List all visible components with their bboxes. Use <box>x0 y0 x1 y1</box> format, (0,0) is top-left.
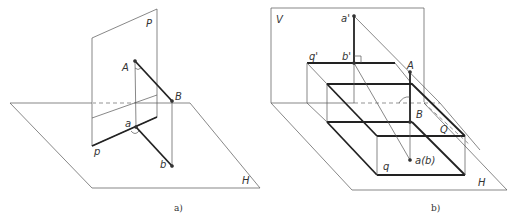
projector-aa <box>135 61 136 127</box>
box-diag-1 <box>307 63 327 84</box>
label-b-prime: b' <box>342 51 351 62</box>
box-bottom-left-diag <box>327 122 377 175</box>
point-b-prime-marker <box>352 61 355 64</box>
point-a-marker <box>134 125 137 128</box>
segment-ab-projection <box>136 127 172 166</box>
label-plane-h-b: H <box>478 177 486 188</box>
figure-a: P H A B a b p a) <box>10 9 260 213</box>
right-angle-mark-a-lower <box>131 131 139 134</box>
label-point-A-b: A <box>406 60 414 71</box>
label-plane-v: V <box>276 14 284 25</box>
segment-ab <box>135 61 172 101</box>
label-point-a: a <box>125 118 131 129</box>
box-bottom-right-diag <box>412 122 465 175</box>
label-plane-h-a: H <box>242 175 250 186</box>
label-a-prime: a' <box>341 13 350 24</box>
point-B-marker <box>170 99 173 102</box>
box-top-left-diag <box>327 84 377 136</box>
label-point-A-a: A <box>121 62 129 73</box>
p-inner-line <box>92 95 157 118</box>
plane-h-b <box>271 103 507 190</box>
label-trace-q: q <box>383 161 389 172</box>
caption-b: b) <box>431 203 440 213</box>
label-point-b: b <box>160 159 166 170</box>
label-plane-Q: Q <box>440 124 448 135</box>
projector-a-prime-diag <box>354 16 440 103</box>
plane-h-a <box>10 103 260 188</box>
point-b-marker <box>170 164 173 167</box>
label-q-prime: q' <box>309 51 318 62</box>
diagram-canvas: P H A B a b p a) <box>0 0 513 220</box>
label-point-B-a: B <box>175 91 182 102</box>
label-point-B-b: B <box>416 109 423 120</box>
label-plane-p: P <box>146 18 153 29</box>
point-B-b-marker <box>408 120 411 123</box>
box-diag-3 <box>307 103 327 122</box>
caption-a: a) <box>174 203 183 213</box>
projector-b-prime-diag <box>354 63 410 160</box>
label-trace-p: p <box>93 146 100 157</box>
point-A-marker <box>133 59 136 62</box>
figure-b: V H a' b' q' A B Q q a(b) b) <box>271 8 507 213</box>
point-ab-marker <box>408 158 411 161</box>
label-point-ab: a(b) <box>415 155 435 166</box>
point-a-prime-marker <box>352 14 355 17</box>
right-angle-mark-a-upper <box>135 68 141 70</box>
